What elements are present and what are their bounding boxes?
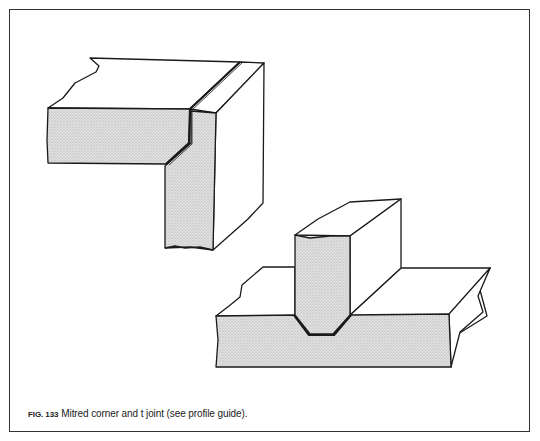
figure-number: FIG. 133 [28,410,58,419]
figure-caption: FIG. 133Mitred corner and t joint (see p… [28,408,247,419]
t-joint-drawing [216,199,490,367]
joinery-illustration [0,0,540,441]
figure-caption-text: Mitred corner and t joint (see profile g… [61,408,247,419]
mitred-corner-drawing [47,58,264,250]
